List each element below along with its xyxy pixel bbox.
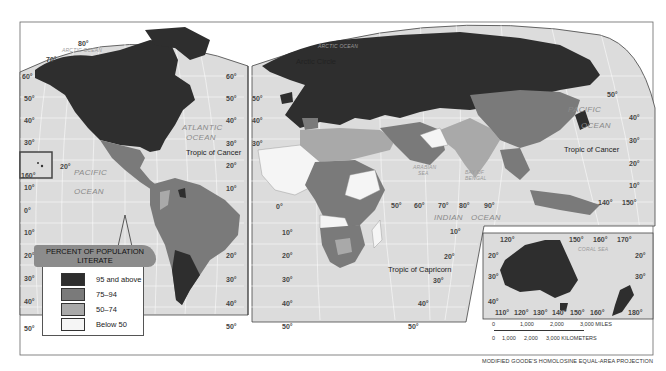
- ocean-label-arctic-west: ARCTIC OCEAN: [62, 48, 102, 53]
- legend-title-line1: PERCENT OF POPULATION: [34, 247, 156, 256]
- scale-miles-tick: 3,000 MILES: [580, 321, 612, 327]
- lat-label: 0°: [24, 207, 31, 214]
- lat-label: 10°: [226, 185, 237, 192]
- tropic-of-cancer-label: Tropic of Cancer: [564, 146, 619, 154]
- lat-label: 30°: [24, 139, 35, 146]
- lon-label: 70°: [438, 202, 449, 209]
- scale-miles-tick: 0: [492, 321, 495, 327]
- lon-label: 80°: [459, 202, 470, 209]
- lat-label: 50°: [226, 323, 237, 330]
- lat-label: 50°: [24, 95, 35, 102]
- scale-km-tick: 3,000 KILOMETERS: [546, 335, 597, 341]
- lat-label: 20°: [488, 252, 499, 259]
- lat-label: 40°: [629, 114, 640, 121]
- lon-label: 60°: [414, 202, 425, 209]
- scale-miles-tick: 1,000: [520, 321, 534, 327]
- arctic-circle-label: Arctic Circle: [296, 58, 336, 66]
- scale-line: [494, 330, 584, 331]
- lon-label: 140°: [552, 309, 566, 316]
- hawaii-lat-label: 20°: [60, 163, 71, 170]
- lat-label: 50°: [24, 325, 35, 332]
- lon-label: 120°: [514, 309, 528, 316]
- lat-label: 40°: [252, 117, 263, 124]
- lon-label: 160°: [590, 309, 604, 316]
- legend-item: Below 50: [61, 318, 127, 331]
- legend: PERCENT OF POPULATION LITERATE 95 and ab…: [42, 250, 144, 336]
- lat-label: 50°: [226, 95, 237, 102]
- ocean-label-arctic-east: ARCTIC OCEAN: [318, 44, 358, 49]
- lon-label: 160°: [593, 236, 607, 243]
- legend-swatch: [61, 303, 85, 316]
- ocean-label-atlantic: ATLANTIC: [182, 124, 222, 132]
- lat-label: 30°: [488, 273, 499, 280]
- ocean-label-bay-of-bengal: BENGAL: [465, 176, 487, 181]
- lat-label: 30°: [433, 277, 444, 284]
- oceania-inset: [483, 233, 653, 319]
- legend-swatch: [61, 288, 85, 301]
- ocean-label-indian: OCEAN: [471, 214, 501, 222]
- ocean-label-pacific-east: OCEAN: [581, 122, 611, 130]
- ocean-label-arabian-sea: SEA: [418, 171, 429, 176]
- lat-label: 50°: [282, 323, 293, 330]
- lat-label: 30°: [24, 275, 35, 282]
- lat-label: 60°: [22, 73, 33, 80]
- lat-label: 30°: [226, 276, 237, 283]
- hawaii-lon-label: 160°: [21, 172, 35, 179]
- legend-swatch: [61, 318, 85, 331]
- scale-km-tick: 1,000: [502, 335, 516, 341]
- legend-item: 95 and above: [61, 273, 141, 286]
- lon-label: 80°: [78, 40, 89, 47]
- lat-label: 50°: [607, 91, 618, 98]
- lat-label: 10°: [24, 229, 35, 236]
- tropic-of-cancer-label: Tropic of Cancer: [186, 149, 241, 157]
- legend-label: Below 50: [96, 320, 127, 329]
- lat-label: 20°: [629, 160, 640, 167]
- ocean-label-atlantic: OCEAN: [186, 134, 216, 142]
- legend-label: 75–94: [96, 290, 117, 299]
- lat-label: 30°: [282, 276, 293, 283]
- lon-label: 140°: [598, 199, 612, 206]
- lat-label: 10°: [450, 228, 461, 235]
- tropic-of-capricorn-label: Tropic of Capricorn: [388, 266, 452, 274]
- scale-miles-tick: 2,000: [550, 321, 564, 327]
- lat-label: 60°: [226, 73, 237, 80]
- lon-label: 110°: [495, 309, 509, 316]
- lat-label: 20°: [226, 252, 237, 259]
- lat-label: 30°: [629, 137, 640, 144]
- lat-label: 40°: [282, 300, 293, 307]
- lat-label: 20°: [635, 252, 646, 259]
- legend-item: 75–94: [61, 288, 117, 301]
- lat-label: 10°: [24, 184, 35, 191]
- lon-label: 180°: [628, 309, 642, 316]
- lat-label: 20°: [282, 252, 293, 259]
- scale-km-tick: 2,000: [524, 335, 538, 341]
- legend-label: 50–74: [96, 305, 117, 314]
- lat-label: 40°: [226, 117, 237, 124]
- lat-label: 20°: [444, 253, 455, 260]
- ocean-label-indian: INDIAN: [434, 214, 463, 222]
- ocean-label-pacific-west: PACIFIC: [74, 169, 107, 177]
- projection-label: MODIFIED GOODE'S HOMOLOSINE EQUAL-AREA P…: [482, 358, 653, 364]
- lon-label: 170°: [617, 236, 631, 243]
- lon-label: 120°: [500, 236, 514, 243]
- lon-label: 150°: [570, 309, 584, 316]
- lat-label: 10°: [629, 182, 640, 189]
- lat-label: 30°: [635, 273, 646, 280]
- ocean-label-coral-sea: CORAL SEA: [578, 247, 608, 252]
- lat-label: 20°: [24, 252, 35, 259]
- legend-label: 95 and above: [96, 275, 141, 284]
- scale-bar: 0 1,000 2,000 3,000 MILES 0 1,000 2,000 …: [492, 321, 642, 351]
- lat-label: 40°: [24, 117, 35, 124]
- lon-label: 130°: [533, 309, 547, 316]
- lat-label: 50°: [408, 323, 419, 330]
- lat-label: 40°: [418, 300, 429, 307]
- lat-label: 50°: [252, 95, 263, 102]
- ocean-label-pacific-east: PACIFIC: [568, 106, 601, 114]
- lat-label: 20°: [226, 162, 237, 169]
- lat-label: 40°: [488, 298, 499, 305]
- legend-title: PERCENT OF POPULATION LITERATE: [34, 245, 156, 267]
- lon-label: 150°: [569, 236, 583, 243]
- lat-label: 30°: [252, 140, 263, 147]
- lat-label: 30°: [226, 140, 237, 147]
- legend-item: 50–74: [61, 303, 117, 316]
